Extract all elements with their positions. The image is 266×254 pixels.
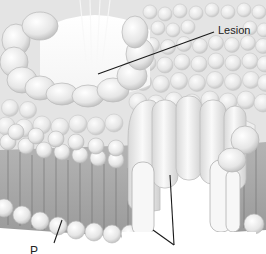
lesion-label: Lesion [218, 24, 250, 36]
diagram-artwork [0, 0, 266, 254]
partial-label: P [30, 246, 38, 254]
protein-leg-left [132, 162, 154, 236]
membrane-lesion-diagram: Lesion P [0, 0, 266, 254]
